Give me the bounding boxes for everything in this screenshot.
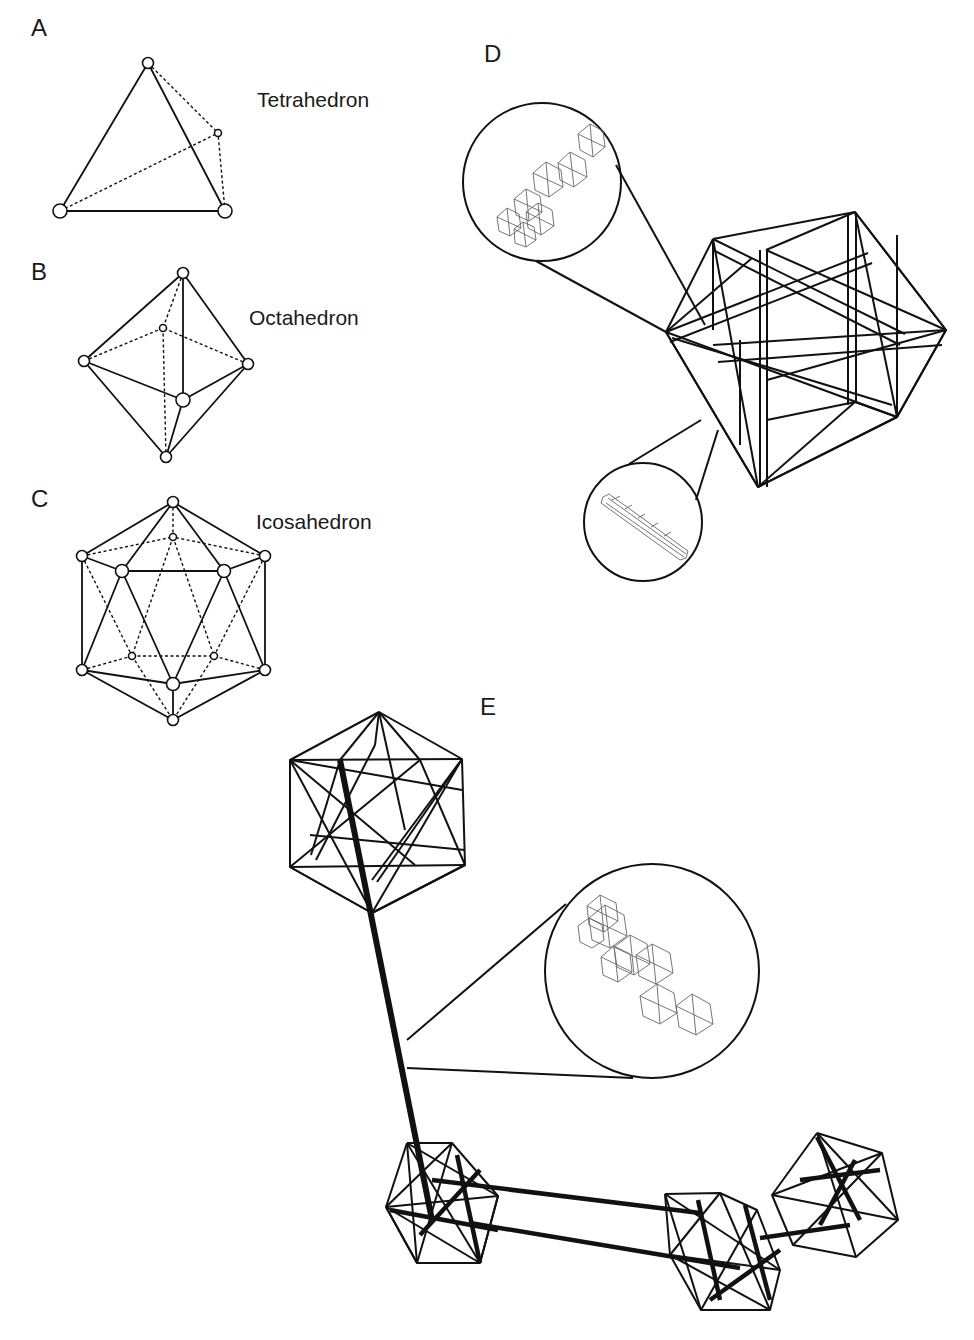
tetrahedron-diagram [53, 58, 232, 219]
panel-e-tube-upper [432, 1180, 700, 1213]
figure-canvas [0, 0, 974, 1340]
panel-e-tube-lower [470, 1223, 740, 1268]
panel-d-inset-upper [463, 103, 705, 332]
panel-e-inset [407, 864, 759, 1078]
icosahedron-diagram [77, 497, 271, 726]
panel-e-bottom-right-icosahedron [760, 1133, 898, 1257]
octahedron-diagram [79, 268, 254, 463]
panel-d-structure [666, 212, 946, 487]
panel-e-bottom-left-icosahedron [386, 1143, 498, 1263]
panel-e-top-icosahedron [290, 712, 465, 913]
panel-d-inset-lower [584, 420, 718, 581]
panel-e-connector [340, 760, 432, 1220]
